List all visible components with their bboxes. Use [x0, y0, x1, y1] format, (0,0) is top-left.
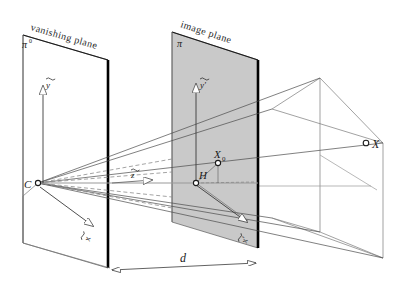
label-image-point-x0: X	[213, 148, 222, 160]
label-vector-y-text: y	[45, 80, 50, 90]
diagram-canvas: vanishing plane image plane π 0 π C H X …	[0, 0, 394, 290]
point-principal-point-H	[193, 180, 198, 185]
point-image-point-x0	[215, 160, 220, 165]
image-plane	[172, 32, 258, 248]
image-plane-face	[172, 32, 258, 248]
point-world-point-X	[363, 140, 369, 146]
projective-geometry-diagram: vanishing plane image plane π 0 π C H X …	[0, 0, 394, 290]
label-principal-point: H	[198, 169, 208, 181]
vanishing-plane	[23, 35, 108, 268]
label-image-point-x0-subscript: 0	[222, 155, 226, 163]
vanishing-plane-face	[23, 35, 108, 268]
label-vector-z-text: z	[130, 170, 135, 180]
label-pi-zero-superscript: 0	[29, 38, 32, 44]
label-world-point-X: X	[371, 137, 380, 151]
label-vector-y-prime-text: y′	[199, 80, 207, 90]
label-distance-d: d	[180, 251, 187, 265]
point-camera-center	[35, 180, 40, 185]
label-camera-center: C	[24, 178, 32, 190]
